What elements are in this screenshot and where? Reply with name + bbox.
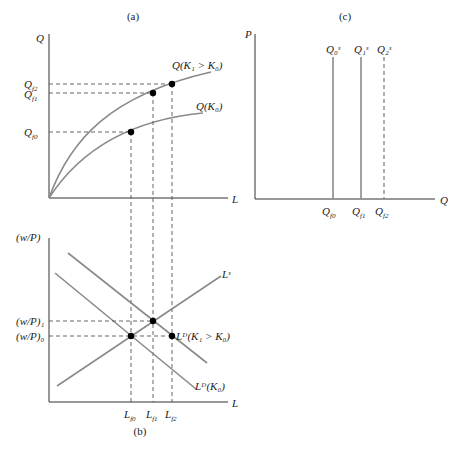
c-x-label: Q — [440, 194, 448, 206]
svg-text:Lf2: Lf2 — [164, 408, 177, 423]
c-y-label: P — [244, 28, 252, 40]
b-y-label: (w/P) — [16, 231, 41, 244]
panel-a: (a) Q L Q(K₁ > K₀) Q(K₀) Qf2 Qf1 Qf0 — [24, 10, 238, 402]
b-x-label: L — [231, 397, 238, 409]
q1s-label: Q₁ˢ — [354, 43, 369, 55]
demand-high-line — [68, 253, 207, 363]
demand-high-label: Lᴰ(K₁ > K₀) — [175, 330, 230, 343]
a-x-label: L — [231, 193, 238, 205]
supply-label: Lˢ — [221, 268, 231, 280]
q2s-label: Q₂ˢ — [377, 43, 392, 55]
svg-text:Qf0: Qf0 — [24, 126, 38, 141]
panel-c-title: (c) — [339, 10, 352, 23]
wp1-label: (w/P)₁ — [16, 315, 44, 328]
demand-low-label: Lᴰ(K₀) — [194, 380, 225, 393]
svg-text:Qf1: Qf1 — [352, 205, 365, 220]
svg-text:Lf1: Lf1 — [145, 408, 158, 423]
wp0-label: (w/P)₀ — [16, 330, 44, 343]
panel-a-title: (a) — [127, 10, 140, 23]
demand-low-line — [55, 273, 196, 389]
a-y-label: Q — [36, 32, 44, 44]
svg-text:Qf2: Qf2 — [375, 205, 389, 220]
a-curve-low-label: Q(K₀) — [196, 100, 223, 113]
panel-b: (w/P) L Lˢ Lᴰ(K₁ > K₀) Lᴰ(K₀) (w/P)₁ (w/… — [16, 231, 238, 438]
a-curve-high-label: Q(K₁ > K₀) — [172, 59, 223, 72]
labor-market-diagram: (a) Q L Q(K₁ > K₀) Q(K₀) Qf2 Qf1 Qf0 (w/… — [0, 0, 460, 449]
panel-b-title: (b) — [134, 425, 147, 438]
panel-c: (c) P Q Q₀ˢ Q₁ˢ Q₂ˢ Qf0 Qf1 Qf2 — [244, 10, 448, 220]
svg-text:Qf0: Qf0 — [322, 205, 336, 220]
a-curve-low — [49, 113, 203, 198]
q0s-label: Q₀ˢ — [326, 43, 341, 55]
svg-text:Lf0: Lf0 — [123, 408, 136, 423]
